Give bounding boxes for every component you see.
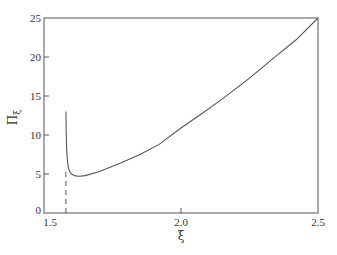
y-tick-label: 10 <box>30 129 42 141</box>
x-tick-label: 2.5 <box>311 216 325 228</box>
y-axis-label-main: Π <box>6 115 20 125</box>
x-axis-ticks: 1.52.02.5 <box>43 208 325 228</box>
y-tick-label: 25 <box>30 12 42 24</box>
y-tick-label: 0 <box>36 204 42 216</box>
data-curve <box>66 18 318 176</box>
y-tick-label: 20 <box>30 51 42 63</box>
y-axis-ticks: 0510152025 <box>30 12 49 216</box>
chart: 1.52.02.5 0510152025 ξ Πξ <box>0 0 337 255</box>
y-tick-label: 15 <box>30 90 42 102</box>
x-tick-label: 1.5 <box>43 216 57 228</box>
plot-frame <box>44 18 318 213</box>
x-axis-label: ξ <box>178 229 185 243</box>
y-axis-label: Πξ <box>6 110 22 125</box>
y-tick-label: 5 <box>36 168 42 180</box>
y-axis-label-subscript: ξ <box>12 110 22 115</box>
x-tick-label: 2.0 <box>174 216 188 228</box>
